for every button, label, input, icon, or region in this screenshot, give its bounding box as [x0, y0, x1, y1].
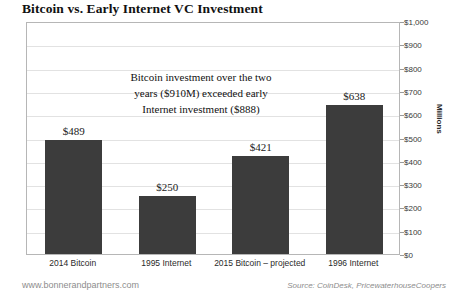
bar — [139, 196, 196, 254]
y-tick-label: $900 — [404, 41, 422, 50]
bars-layer: $489$250$421$638 — [27, 23, 399, 254]
x-tick-label: 1995 Internet — [120, 258, 214, 268]
x-tick-label: 2015 Bitcoin – projected — [213, 258, 307, 268]
bar-group: $489 — [45, 21, 102, 254]
bar-value-label: $421 — [218, 141, 303, 153]
x-axis-category-labels: 2014 Bitcoin1995 Internet2015 Bitcoin – … — [26, 258, 400, 272]
y-tick-label: $800 — [404, 64, 422, 73]
bar-value-label: $638 — [312, 90, 397, 102]
plot-area: $489$250$421$638 Bitcoin investment over… — [26, 22, 400, 255]
bar-value-label: $489 — [31, 125, 116, 137]
chart-annotation: Bitcoin investment over the two years ($… — [99, 69, 303, 117]
y-axis-labels: $0$100$200$300$400$500$600$700$800$900$1… — [404, 22, 450, 255]
y-tick-label: $500 — [404, 134, 422, 143]
y-tick-label: $700 — [404, 87, 422, 96]
footer-website: www.bonnerandpartners.com — [22, 280, 139, 290]
bar — [326, 105, 383, 254]
y-tick-label: $600 — [404, 111, 422, 120]
bar-group: $638 — [326, 21, 383, 254]
annotation-line-2: years ($910M) exceeded early — [99, 85, 303, 101]
y-axis-title: Millions — [435, 104, 444, 134]
y-tick-label: $200 — [404, 204, 422, 213]
bar — [232, 156, 289, 254]
y-tick-label: $300 — [404, 181, 422, 190]
bar — [45, 140, 102, 254]
chart-title: Bitcoin vs. Early Internet VC Investment — [22, 1, 263, 17]
x-tick-label: 1996 Internet — [307, 258, 401, 268]
bar-value-label: $250 — [125, 181, 210, 193]
bar-chart-figure: Bitcoin vs. Early Internet VC Investment… — [0, 0, 471, 300]
y-tick-label: $400 — [404, 157, 422, 166]
annotation-line-1: Bitcoin investment over the two — [99, 69, 303, 85]
bar-group: $421 — [232, 21, 289, 254]
x-tick-label: 2014 Bitcoin — [26, 258, 120, 268]
bar-group: $250 — [139, 21, 196, 254]
y-tick-label: $0 — [404, 251, 413, 260]
footer-source: Source: CoinDesk, PricewaterhouseCoopers — [287, 281, 446, 290]
y-tick-label: $1,000 — [404, 18, 428, 27]
y-tick-label: $100 — [404, 227, 422, 236]
annotation-line-3: Internet investment ($888) — [99, 101, 303, 117]
